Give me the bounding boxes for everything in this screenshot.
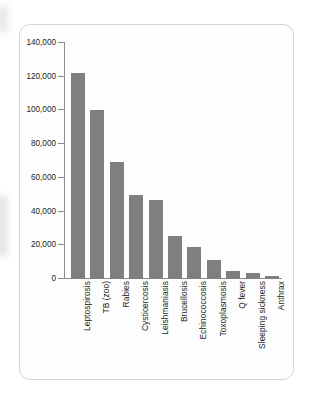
category-label-text: Sleeping sickness — [257, 281, 267, 349]
y-axis-tick — [58, 109, 64, 110]
y-axis-tick — [58, 143, 64, 144]
category-label-text: Toxoplasmosis — [218, 281, 228, 337]
bar[interactable] — [187, 247, 201, 279]
page-edge-artifact — [0, 6, 8, 32]
y-axis-tick-label: 120,000 — [20, 71, 56, 80]
bar-series — [65, 42, 282, 279]
x-axis-category-label: Rabies — [121, 281, 131, 307]
x-axis-category-label: Sleeping sickness — [257, 281, 267, 349]
category-label-text: Leishmaniasis — [160, 281, 170, 335]
bar[interactable] — [90, 110, 104, 279]
y-axis-tick-label: 20,000 — [20, 240, 56, 249]
x-axis-category-label: Leishmaniasis — [160, 281, 170, 335]
y-axis-tick-label: 60,000 — [20, 172, 56, 181]
category-label-text: Leptospirosis — [82, 281, 92, 331]
y-axis-tick — [58, 177, 64, 178]
bar-chart-plot-area: 020,00040,00060,00080,000100,000120,0001… — [20, 25, 295, 381]
bar[interactable] — [207, 260, 221, 279]
page-edge-artifact — [0, 196, 8, 256]
x-axis-category-label: Cysticercosis — [140, 281, 150, 331]
y-axis-tick — [58, 278, 64, 279]
y-axis-tick-label: 80,000 — [20, 139, 56, 148]
x-axis-category-label: Anthrax — [276, 281, 286, 310]
category-label-text: Echinococcosis — [198, 281, 208, 339]
category-label-text: TB (zoo) — [101, 281, 111, 314]
category-label-text: Cysticercosis — [140, 281, 150, 331]
x-axis-category-label: Leptospirosis — [82, 281, 92, 331]
x-axis-category-labels: LeptospirosisTB (zoo)RabiesCysticercosis… — [65, 281, 282, 377]
x-axis-category-label: Toxoplasmosis — [218, 281, 228, 337]
category-label-text: Q fever — [237, 281, 247, 309]
y-axis-tick — [58, 211, 64, 212]
category-label-text: Rabies — [121, 281, 131, 307]
bar[interactable] — [226, 271, 240, 279]
y-axis-tick — [58, 42, 64, 43]
y-axis-tick-label: 140,000 — [20, 38, 56, 47]
category-label-text: Anthrax — [276, 281, 286, 310]
bar[interactable] — [149, 200, 163, 279]
bar[interactable] — [71, 73, 85, 279]
x-axis-category-label: Echinococcosis — [198, 281, 208, 339]
x-axis-category-label: Brucellosis — [179, 281, 189, 322]
x-axis-category-label: TB (zoo) — [101, 281, 111, 314]
y-axis-tick-label: 40,000 — [20, 206, 56, 215]
y-axis-tick — [58, 244, 64, 245]
category-label-text: Brucellosis — [179, 281, 189, 322]
bar[interactable] — [265, 276, 279, 279]
x-axis-category-label: Q fever — [237, 281, 247, 309]
bar[interactable] — [110, 162, 124, 279]
bar[interactable] — [246, 273, 260, 279]
y-axis-tick-label: 100,000 — [20, 105, 56, 114]
bar[interactable] — [168, 236, 182, 279]
y-axis-tick — [58, 76, 64, 77]
bar[interactable] — [129, 195, 143, 279]
y-axis-tick-label: 0 — [20, 274, 56, 283]
chart-card: 020,00040,00060,00080,000100,000120,0001… — [19, 24, 294, 380]
